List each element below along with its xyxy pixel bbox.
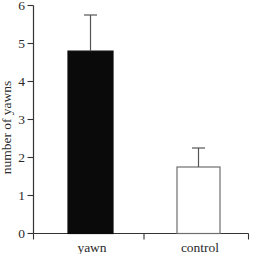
y-tick-label: 6 [18,0,25,13]
y-tick-label: 5 [18,36,25,51]
y-tick-label: 4 [18,74,25,89]
y-tick-label: 0 [18,226,25,241]
bar-control [177,167,220,234]
bar-yawn [68,51,113,233]
figure-canvas: 0123456yawncontrolnumber of yawns [0,0,256,254]
y-tick-label: 2 [18,150,25,165]
y-tick-label: 1 [18,188,25,203]
y-axis-title: number of yawns [0,81,14,175]
bar-chart: 0123456yawncontrolnumber of yawns [0,0,256,254]
category-label-control: control [181,240,219,254]
y-tick-label: 3 [18,112,25,127]
category-label-yawn: yawn [77,240,106,254]
